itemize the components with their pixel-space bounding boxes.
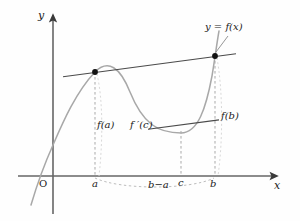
tangent-line-at-c [148,120,219,129]
f-of-b-label: f(b) [221,111,239,121]
f-prime-of-c-label: f ′(c) [130,120,153,130]
tick-label-b: b [210,179,216,189]
y-axis-label: y [38,10,44,21]
origin-label: O [39,179,47,189]
secant-line [63,54,236,77]
point-b [212,53,218,59]
mvt-figure: y x O y = f(x) f(a) f ′(c) f(b) a c b b−… [0,0,300,221]
tick-label-a: a [92,179,98,189]
tick-label-c: c [178,178,184,188]
f-of-a-label: f(a) [97,120,114,130]
x-axis-label: x [274,180,280,191]
function-curve [31,31,219,205]
point-a [92,69,98,75]
interval-width-label: b−a [148,180,169,190]
curve-equation-label: y = f(x) [205,22,243,32]
